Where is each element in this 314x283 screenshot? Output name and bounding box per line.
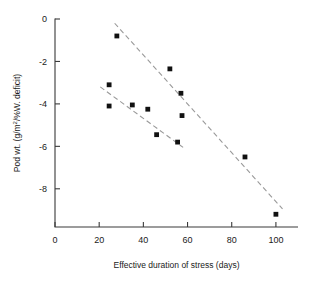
y-tick-label: 0: [42, 14, 47, 24]
data-point: [180, 113, 185, 118]
x-tick-label: 20: [94, 235, 104, 245]
x-tick-label: 60: [183, 235, 193, 245]
x-axis-title-text: Effective duration of stress (days): [114, 260, 240, 270]
x-tick-label: 0: [52, 235, 57, 245]
data-point: [107, 82, 112, 87]
data-point: [243, 155, 248, 160]
x-tick-label: 100: [268, 235, 283, 245]
y-tick-label: -6: [39, 142, 47, 152]
data-point: [167, 66, 172, 71]
x-tick-label: 80: [227, 235, 237, 245]
data-point: [145, 107, 150, 112]
y-tick-label: -2: [39, 57, 47, 67]
scatter-plot: 020406080100 0-2-4-6-8 Effective duratio…: [0, 0, 314, 283]
x-axis-title: Effective duration of stress (days): [114, 260, 240, 270]
data-point: [175, 140, 180, 145]
plot-background: [0, 0, 314, 283]
y-tick-label: -8: [39, 184, 47, 194]
data-point: [130, 103, 135, 108]
y-tick-label: -4: [39, 99, 47, 109]
data-point: [154, 132, 159, 137]
chart-figure: 020406080100 0-2-4-6-8 Effective duratio…: [0, 0, 314, 283]
data-point: [107, 104, 112, 109]
data-point: [179, 91, 184, 96]
data-point: [114, 34, 119, 39]
x-tick-label: 40: [138, 235, 148, 245]
data-point: [274, 212, 279, 217]
